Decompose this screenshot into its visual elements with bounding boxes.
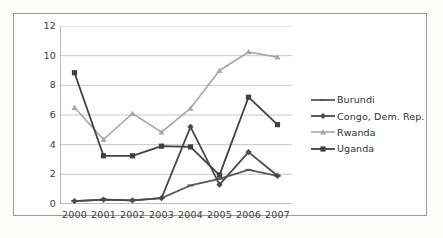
series-line — [75, 73, 278, 175]
data-point-marker — [245, 169, 251, 171]
legend-item-rwanda[interactable]: Rwanda — [310, 124, 430, 140]
data-point-marker — [187, 124, 193, 130]
legend-marker-icon — [310, 125, 336, 139]
data-point-marker — [320, 113, 326, 119]
data-point-marker — [100, 196, 106, 202]
legend-item-congo-dem-rep[interactable]: Congo, Dem. Rep. — [310, 108, 430, 124]
data-point-marker — [72, 105, 78, 110]
y-axis-tick-label: 10 — [34, 51, 56, 61]
data-point-marker — [320, 99, 326, 101]
legend-marker-icon — [310, 109, 336, 123]
data-point-marker — [159, 144, 164, 149]
data-point-marker — [275, 122, 280, 127]
plot-lines — [60, 26, 292, 204]
y-axis-tick-label: 6 — [34, 110, 56, 120]
data-point-marker — [130, 111, 136, 116]
y-axis-tick-label: 12 — [34, 21, 56, 31]
legend-item-label: Burundi — [336, 95, 375, 105]
y-axis-tick-label: 8 — [34, 81, 56, 91]
x-axis-tick-label: 2007 — [261, 210, 295, 220]
data-point-marker — [130, 153, 135, 158]
data-point-marker — [71, 198, 77, 204]
y-axis: 024681012 — [30, 26, 56, 204]
data-point-marker — [129, 197, 135, 203]
data-point-marker — [187, 184, 193, 186]
plot-area — [60, 26, 292, 204]
y-axis-tick-label: 4 — [34, 140, 56, 150]
chart-legend: BurundiCongo, Dem. Rep.RwandaUganda — [310, 92, 430, 157]
legend-item-label: Congo, Dem. Rep. — [336, 112, 424, 122]
chart-frame: 024681012 200020012002200320042005200620… — [13, 13, 427, 216]
data-point-marker — [158, 195, 164, 201]
data-point-marker — [72, 70, 77, 75]
y-axis-tick-label: 0 — [34, 199, 56, 209]
chart-page: 024681012 200020012002200320042005200620… — [0, 0, 443, 238]
data-point-marker — [101, 153, 106, 158]
data-point-marker — [217, 172, 222, 177]
data-point-marker — [188, 144, 193, 149]
x-axis: 20002001200220032004200520062007 — [60, 210, 292, 228]
legend-item-burundi[interactable]: Burundi — [310, 92, 430, 108]
data-point-marker — [246, 95, 251, 100]
y-axis-tick-label: 2 — [34, 170, 56, 180]
legend-item-uganda[interactable]: Uganda — [310, 141, 430, 157]
legend-marker-icon — [310, 142, 336, 156]
legend-item-label: Uganda — [336, 144, 374, 154]
data-point-marker — [320, 146, 325, 151]
legend-item-label: Rwanda — [336, 128, 376, 138]
legend-marker-icon — [310, 93, 336, 107]
